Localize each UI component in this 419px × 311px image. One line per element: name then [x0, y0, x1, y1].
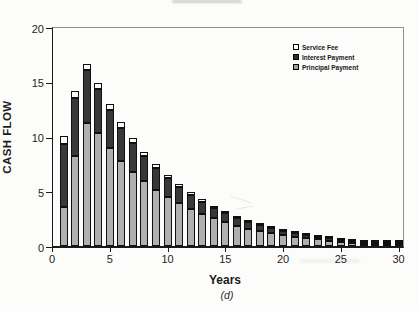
bar-segment-principal-payment	[210, 218, 218, 246]
bar-year-12	[187, 192, 195, 246]
bar-segment-principal-payment	[94, 133, 102, 246]
bar-segment-interest-payment	[117, 128, 125, 161]
bar-segment-interest-payment	[187, 195, 195, 209]
x-tick	[341, 248, 342, 252]
bar-segment-principal-payment	[360, 244, 368, 246]
legend-label-service-fee: Service Fee	[302, 44, 338, 51]
bar-year-18	[256, 223, 264, 246]
bar-segment-interest-payment	[140, 156, 148, 181]
cash-flow-stacked-bar-chart: CASH FLOW Service Fee Interest Payment P…	[0, 0, 419, 311]
x-tick-label: 25	[329, 253, 353, 265]
y-tick	[46, 83, 52, 84]
bar-year-7	[129, 138, 137, 246]
x-tick	[168, 248, 169, 252]
bar-year-6	[117, 122, 125, 246]
bar-year-19	[267, 226, 275, 246]
bar-segment-interest-payment	[94, 89, 102, 133]
bar-segment-interest-payment	[198, 202, 206, 214]
bar-segment-principal-payment	[233, 226, 241, 246]
bar-segment-interest-payment	[152, 168, 160, 190]
legend-swatch-service-fee	[293, 44, 299, 50]
bar-segment-principal-payment	[152, 190, 160, 246]
bar-year-4	[94, 83, 102, 246]
bar-year-25	[337, 238, 345, 246]
bar-year-14	[210, 206, 218, 246]
bar-year-11	[175, 184, 183, 246]
bar-segment-principal-payment	[291, 237, 299, 246]
bar-year-3	[83, 64, 91, 246]
legend-label-interest-payment: Interest Payment	[302, 54, 354, 61]
x-tick	[110, 248, 111, 252]
bar-segment-interest-payment	[106, 110, 114, 148]
y-axis-title: CASH FLOW	[1, 87, 15, 187]
x-tick-label: 20	[271, 253, 295, 265]
y-tick-label: 5	[14, 187, 44, 199]
bar-segment-principal-payment	[117, 161, 125, 246]
y-tick-label: 10	[14, 132, 44, 144]
bar-year-5	[106, 104, 114, 246]
bar-segment-principal-payment	[244, 229, 252, 246]
bar-segment-interest-payment	[164, 178, 172, 197]
bar-year-26	[348, 239, 356, 246]
x-tick-label: 30	[387, 253, 411, 265]
bar-segment-principal-payment	[325, 241, 333, 246]
x-axis-title: Years	[165, 273, 285, 287]
bar-year-24	[325, 236, 333, 246]
bar-segment-interest-payment	[71, 98, 79, 157]
scan-artifact-top	[172, 0, 242, 3]
bar-year-16	[233, 216, 241, 246]
x-tick	[52, 248, 53, 252]
bar-year-22	[302, 233, 310, 246]
bar-year-27	[360, 240, 368, 246]
bar-segment-principal-payment	[106, 148, 114, 246]
bar-segment-principal-payment	[267, 233, 275, 246]
bar-segment-interest-payment	[129, 143, 137, 173]
bar-segment-principal-payment	[140, 181, 148, 246]
bar-segment-principal-payment	[60, 207, 68, 246]
bar-segment-principal-payment	[83, 123, 91, 246]
bar-segment-principal-payment	[383, 244, 391, 246]
bar-segment-principal-payment	[279, 235, 287, 246]
bar-segment-interest-payment	[60, 144, 68, 207]
bar-segment-principal-payment	[129, 172, 137, 246]
chart-legend: Service Fee Interest Payment Principal P…	[293, 43, 358, 73]
y-tick	[46, 138, 52, 139]
bar-year-30	[395, 242, 403, 246]
y-tick-label: 15	[14, 77, 44, 89]
bar-segment-principal-payment	[302, 238, 310, 246]
bar-segment-principal-payment	[395, 244, 403, 246]
x-tick	[225, 248, 226, 252]
bar-segment-principal-payment	[314, 239, 322, 246]
bar-segment-service-fee	[60, 136, 68, 144]
figure-caption: (d)	[165, 289, 289, 301]
bar-year-8	[140, 152, 148, 246]
bar-segment-principal-payment	[348, 243, 356, 246]
bar-segment-principal-payment	[164, 197, 172, 246]
bar-year-23	[314, 235, 322, 246]
bar-year-29	[383, 242, 391, 246]
bar-segment-interest-payment	[233, 218, 241, 226]
y-tick	[46, 192, 52, 193]
legend-item-interest-payment: Interest Payment	[293, 53, 358, 61]
x-tick	[283, 248, 284, 252]
bar-segment-interest-payment	[221, 213, 229, 222]
y-tick-label: 0	[14, 242, 44, 254]
bar-year-21	[291, 231, 299, 246]
bar-segment-interest-payment	[83, 70, 91, 123]
legend-item-principal-payment: Principal Payment	[293, 63, 358, 71]
bar-segment-principal-payment	[256, 231, 264, 246]
bar-segment-interest-payment	[175, 187, 183, 203]
x-tick-label: 5	[98, 253, 122, 265]
bar-segment-principal-payment	[221, 222, 229, 246]
bar-year-15	[221, 211, 229, 246]
legend-label-principal-payment: Principal Payment	[302, 64, 358, 71]
bar-segment-service-fee	[71, 91, 79, 98]
bar-year-9	[152, 164, 160, 246]
y-tick-label: 20	[14, 23, 44, 35]
x-tick-label: 15	[213, 253, 237, 265]
bar-segment-principal-payment	[71, 156, 79, 246]
bar-segment-principal-payment	[198, 214, 206, 246]
legend-swatch-interest-payment	[293, 54, 299, 60]
y-tick	[46, 28, 52, 29]
bar-year-2	[71, 91, 79, 246]
